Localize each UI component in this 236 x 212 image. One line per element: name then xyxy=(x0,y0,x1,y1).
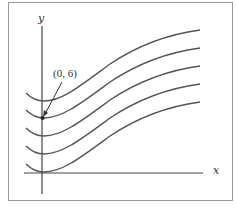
point-marker xyxy=(41,116,45,120)
arrowhead-icon xyxy=(43,110,48,117)
curve-5 xyxy=(26,102,200,172)
curve-1 xyxy=(26,30,200,101)
curve-4 xyxy=(26,84,200,154)
x-axis-label: x xyxy=(213,164,219,177)
diagram-canvas xyxy=(0,0,236,212)
y-axis-label: y xyxy=(38,12,44,25)
point-label: (0, 6) xyxy=(53,67,77,79)
